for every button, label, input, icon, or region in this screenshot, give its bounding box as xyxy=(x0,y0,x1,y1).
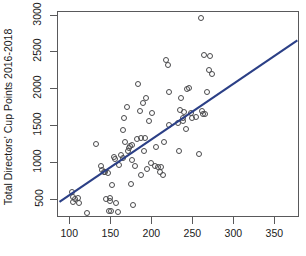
y-tick-label-text: 3000 xyxy=(30,2,42,25)
y-tick-label: 1500 xyxy=(0,118,48,132)
x-tick-mark xyxy=(274,217,275,224)
y-tick-label: 1000 xyxy=(0,155,48,169)
y-tick-mark xyxy=(50,162,57,163)
data-point xyxy=(176,148,182,154)
y-tick-label: 2500 xyxy=(0,44,48,58)
y-tick-label-text: 2000 xyxy=(30,76,42,99)
data-point xyxy=(138,172,144,178)
data-point xyxy=(142,135,148,141)
data-point xyxy=(137,108,143,114)
data-point xyxy=(186,85,192,91)
data-point xyxy=(153,144,159,150)
y-tick-mark xyxy=(50,199,57,200)
data-point xyxy=(84,210,90,216)
y-tick-label: 2000 xyxy=(0,81,48,95)
data-point xyxy=(135,81,141,87)
data-point xyxy=(178,95,184,101)
y-tick-label: 500 xyxy=(0,192,48,206)
x-tick-mark xyxy=(110,217,111,224)
data-point xyxy=(132,163,138,169)
data-point xyxy=(196,151,202,157)
x-tick-label: 300 xyxy=(213,227,253,239)
x-tick-mark xyxy=(151,217,152,224)
data-point xyxy=(198,15,204,21)
x-tick-label: 250 xyxy=(172,227,212,239)
y-tick-label-text: 2500 xyxy=(30,39,42,62)
data-point xyxy=(209,71,215,77)
y-tick-mark xyxy=(50,51,57,52)
x-tick-label: 150 xyxy=(90,227,130,239)
data-point xyxy=(166,89,172,95)
data-point xyxy=(165,62,171,68)
x-tick-mark xyxy=(192,217,193,224)
y-tick-mark xyxy=(50,15,57,16)
scatter-plot-figure: Total Directors' Cup Points 2016-2018 50… xyxy=(0,0,306,256)
data-point xyxy=(143,95,149,101)
data-point xyxy=(201,52,207,58)
x-tick-mark xyxy=(233,217,234,224)
y-tick-mark xyxy=(50,88,57,89)
x-tick-label: 100 xyxy=(49,227,89,239)
data-point xyxy=(109,182,115,188)
data-point xyxy=(149,110,155,116)
y-tick-label-text: 500 xyxy=(33,189,45,207)
data-point xyxy=(115,209,121,215)
data-point xyxy=(120,155,126,161)
data-point xyxy=(105,170,111,176)
y-tick-label-text: 1500 xyxy=(30,112,42,135)
data-point xyxy=(141,148,147,154)
y-tick-label-text: 1000 xyxy=(30,149,42,172)
x-tick-label: 350 xyxy=(254,227,294,239)
plot-area xyxy=(57,11,299,217)
data-point xyxy=(108,208,114,214)
y-tick-mark xyxy=(50,125,57,126)
x-tick-label: 200 xyxy=(131,227,171,239)
x-tick-mark xyxy=(69,217,70,224)
data-point xyxy=(128,181,134,187)
data-point xyxy=(183,126,189,132)
y-tick-label: 3000 xyxy=(0,8,48,22)
